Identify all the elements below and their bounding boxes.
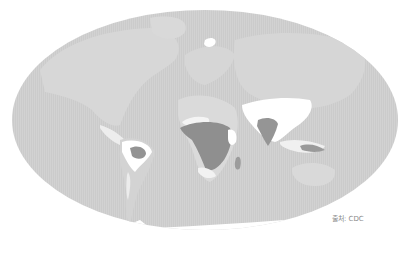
world-map: 출처: CDC (0, 0, 404, 255)
source-label: 출처: CDC (332, 213, 364, 223)
